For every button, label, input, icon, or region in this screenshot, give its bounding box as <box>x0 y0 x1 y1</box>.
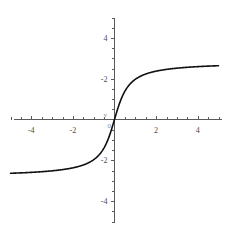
chart-canvas: -4-224 -4-2-24 y 0 <box>0 0 230 238</box>
x-tick-label: -4 <box>28 126 35 135</box>
y-tick-label: -4 <box>101 197 108 206</box>
y-axis-tick-labels: -4-2-24 <box>101 34 108 206</box>
x-tick-label: 2 <box>154 126 158 135</box>
y-tick-label: -2 <box>101 75 108 84</box>
y-axis-name-label: y <box>104 111 108 119</box>
plot-figure: -4-224 -4-2-24 y 0 <box>0 0 230 238</box>
axes-group <box>14 18 222 222</box>
x-tick-label: -2 <box>70 126 77 135</box>
x-tick-label: 4 <box>196 126 200 135</box>
y-tick-label: -2 <box>101 156 108 165</box>
y-tick-label: 4 <box>104 34 108 43</box>
